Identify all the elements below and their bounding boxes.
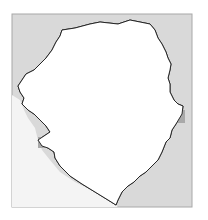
map-container <box>0 0 208 220</box>
sierra-leone-map <box>0 0 208 220</box>
